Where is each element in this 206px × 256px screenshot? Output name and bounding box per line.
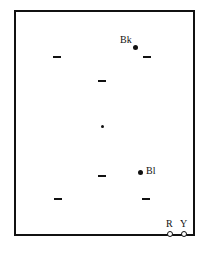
y-ring [181,231,187,237]
r-ring [167,231,173,237]
dash-marker-4 [98,175,106,177]
dash-marker-5 [54,198,62,200]
dash-marker-6 [142,198,150,200]
dash-marker-3 [98,80,106,82]
center-dot [101,125,104,128]
dash-marker-1 [53,56,61,58]
bk-dot [133,45,138,50]
dash-marker-2 [143,56,151,58]
r-label: R [166,219,173,229]
y-label: Y [180,219,187,229]
bk-label: Bk [120,35,132,45]
bl-dot [138,170,143,175]
bl-label: Bl [146,166,155,176]
board-frame [14,10,195,236]
